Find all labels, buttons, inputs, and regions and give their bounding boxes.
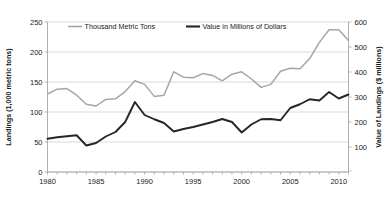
chart-legend: Thousand Metric TonsValue in Millions of… — [68, 22, 287, 31]
chart-container: 1980198519901995200020052010 05010015020… — [0, 0, 389, 202]
y2-tick-label: 400 — [355, 68, 368, 77]
y-tick-label: 100 — [30, 108, 43, 117]
y-axis-right-ticks — [349, 22, 352, 171]
axis-lines — [48, 22, 349, 172]
x-tick-label: 1995 — [185, 177, 202, 186]
y-tick-label: 150 — [30, 78, 43, 87]
y2-tick-label: 100 — [355, 143, 368, 152]
chart-canvas: 1980198519901995200020052010 05010015020… — [0, 0, 389, 202]
y-tick-label: 200 — [30, 48, 43, 57]
x-axis-tick-labels: 1980198519901995200020052010 — [39, 177, 347, 186]
series-line-thousand-metric-tons — [48, 30, 349, 106]
y2-tick-label: 300 — [355, 93, 368, 102]
y-axis-right-tick-labels: 100200300400500600 — [355, 18, 368, 152]
y2-tick-label: 500 — [355, 43, 368, 52]
x-tick-label: 1990 — [136, 177, 153, 186]
legend-label-value-millions-dollars: Value in Millions of Dollars — [203, 22, 287, 31]
legend-label-thousand-metric-tons: Thousand Metric Tons — [85, 22, 156, 31]
x-tick-label: 2005 — [282, 177, 299, 186]
y-axis-left-tick-labels: 050100150200250 — [30, 18, 43, 177]
axis-left-title: Landings (1,000 metric tons) — [4, 48, 13, 146]
y-tick-label: 0 — [38, 168, 42, 177]
y2-tick-label: 200 — [355, 118, 368, 127]
x-tick-label: 1980 — [39, 177, 56, 186]
y-tick-label: 50 — [34, 138, 42, 147]
axis-titles: Landings (1,000 metric tons)Value of Lan… — [4, 46, 383, 148]
x-tick-label: 2010 — [330, 177, 347, 186]
gridlines — [48, 22, 349, 172]
series-line-value-millions-dollars — [48, 92, 349, 146]
y-tick-label: 250 — [30, 18, 43, 27]
y2-tick-label: 600 — [355, 18, 368, 27]
x-tick-label: 2000 — [233, 177, 250, 186]
x-tick-label: 1985 — [88, 177, 105, 186]
data-series-group — [48, 30, 349, 146]
axis-right-title: Value of Landings ($ millions) — [374, 46, 383, 148]
y-axis-left-ticks — [45, 22, 48, 172]
